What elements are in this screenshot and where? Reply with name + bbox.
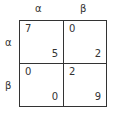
column-player-payoff: 5: [52, 49, 58, 59]
column-player-payoff: 2: [95, 49, 101, 59]
row-label-beta: β: [5, 81, 11, 91]
column-player-payoff: 0: [52, 92, 58, 102]
row-player-payoff: 2: [69, 67, 75, 77]
cell-alpha-alpha: 7 5: [20, 21, 63, 63]
column-player-payoff: 9: [95, 92, 101, 102]
cell-beta-beta: 2 9: [64, 64, 106, 106]
column-label-alpha: α: [35, 4, 42, 14]
cell-alpha-beta: 0 2: [64, 21, 106, 63]
column-label-beta: β: [80, 4, 86, 14]
row-player-payoff: 0: [69, 24, 75, 34]
row-label-alpha: α: [5, 38, 12, 48]
cell-beta-alpha: 0 0: [20, 64, 63, 106]
row-player-payoff: 7: [25, 24, 31, 34]
row-player-payoff: 0: [25, 67, 31, 77]
matrix-grid: 7 5 0 2 0 0 2 9: [19, 20, 107, 107]
